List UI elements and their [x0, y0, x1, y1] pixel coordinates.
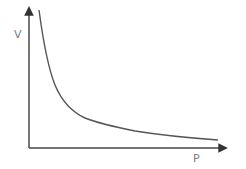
- x-axis-label: P: [193, 152, 200, 165]
- y-axis-label: V: [14, 28, 22, 41]
- chart: V P: [0, 0, 246, 169]
- inverse-curve: [39, 10, 218, 140]
